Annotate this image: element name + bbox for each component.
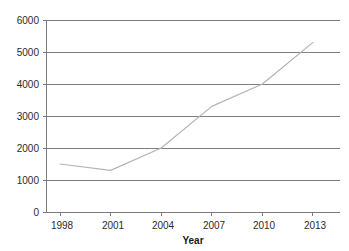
line-chart: 6000 5000 4000 3000 2000 1000 0 1998 200… bbox=[0, 0, 349, 251]
x-tick-label-2010: 2010 bbox=[253, 220, 276, 231]
x-tick-label-2007: 2007 bbox=[203, 220, 226, 231]
y-tick-label-3000: 3000 bbox=[17, 111, 40, 122]
x-tick-label-2001: 2001 bbox=[102, 220, 125, 231]
chart-background bbox=[0, 0, 349, 251]
y-tick-label-4000: 4000 bbox=[17, 79, 40, 90]
y-tick-label-6000: 6000 bbox=[17, 15, 40, 26]
y-tick-label-5000: 5000 bbox=[17, 47, 40, 58]
chart-canvas: 6000 5000 4000 3000 2000 1000 0 1998 200… bbox=[0, 0, 349, 251]
y-tick-label-2000: 2000 bbox=[17, 143, 40, 154]
x-tick-label-1998: 1998 bbox=[51, 220, 74, 231]
x-tick-label-2004: 2004 bbox=[152, 220, 175, 231]
x-tick-label-2013: 2013 bbox=[304, 220, 327, 231]
y-tick-label-1000: 1000 bbox=[17, 175, 40, 186]
y-tick-label-0: 0 bbox=[33, 207, 39, 218]
x-axis-title: Year bbox=[182, 235, 203, 246]
